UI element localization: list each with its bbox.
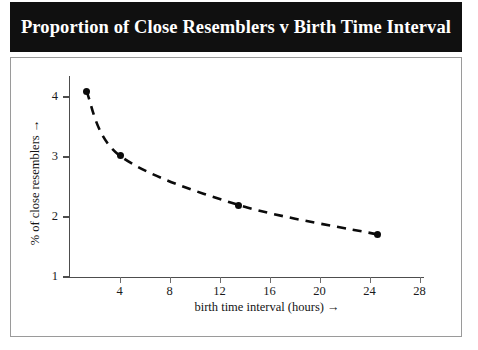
- plot-frame: [10, 57, 462, 337]
- chart-page: Proportion of Close Resemblers v Birth T…: [0, 0, 478, 350]
- chart-title-banner: Proportion of Close Resemblers v Birth T…: [10, 2, 462, 52]
- page-title: Proportion of Close Resemblers v Birth T…: [21, 17, 451, 38]
